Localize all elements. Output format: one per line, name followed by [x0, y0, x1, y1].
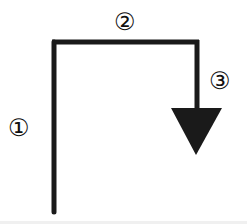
stroke-1-label: ①	[8, 114, 30, 142]
arrow-down-icon	[171, 108, 222, 155]
stroke-3-label: ③	[209, 67, 231, 95]
bottom-rule	[0, 221, 247, 224]
stroke-2-label: ②	[114, 8, 136, 36]
stroke-order-diagram: ① ② ③	[0, 0, 247, 224]
